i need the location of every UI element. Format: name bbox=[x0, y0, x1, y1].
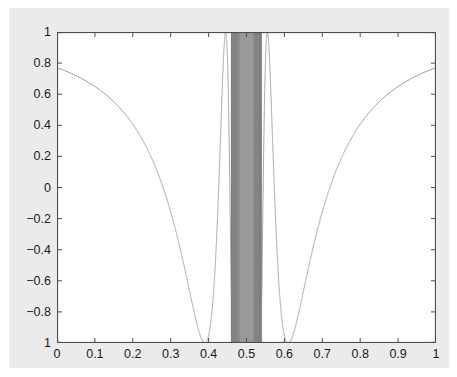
x-tick-label: 0.5 bbox=[238, 348, 255, 361]
x-tick-label: 0.4 bbox=[200, 348, 217, 361]
y-tick-label: 0.2 bbox=[11, 150, 51, 163]
x-tick-label: 0 bbox=[54, 348, 61, 361]
figure-canvas: 10.80.60.40.20−0.2−0.4−0.6−0.81 00.10.20… bbox=[9, 8, 449, 368]
y-tick-label: 0.4 bbox=[11, 119, 51, 132]
y-axis-tick-labels: 10.80.60.40.20−0.2−0.4−0.6−0.81 bbox=[9, 32, 51, 343]
x-tick-label: 0.6 bbox=[276, 348, 293, 361]
x-tick-label: 0.2 bbox=[124, 348, 141, 361]
y-tick-label: 0 bbox=[11, 181, 51, 194]
x-tick-label: 0.1 bbox=[86, 348, 103, 361]
plot-canvas bbox=[57, 32, 436, 343]
y-tick-label: 0.6 bbox=[11, 88, 51, 101]
y-tick-label: −0.2 bbox=[11, 212, 51, 225]
y-tick-label: −0.4 bbox=[11, 243, 51, 256]
y-tick-label: −0.8 bbox=[11, 306, 51, 319]
figure: 10.80.60.40.20−0.2−0.4−0.6−0.81 00.10.20… bbox=[0, 0, 457, 377]
x-tick-label: 0.7 bbox=[314, 348, 331, 361]
plot-axes bbox=[57, 32, 436, 343]
x-tick-label: 1 bbox=[433, 348, 440, 361]
x-tick-label: 0.8 bbox=[351, 348, 368, 361]
y-tick-label: 1 bbox=[11, 26, 51, 39]
y-tick-label: −0.6 bbox=[11, 275, 51, 288]
oscillation-dense-band bbox=[231, 32, 261, 343]
x-tick-label: 0.9 bbox=[389, 348, 406, 361]
x-axis-tick-labels: 00.10.20.30.40.50.60.70.80.91 bbox=[57, 348, 436, 366]
y-tick-label: 0.8 bbox=[11, 57, 51, 70]
y-tick-label: 1 bbox=[11, 337, 51, 350]
x-tick-label: 0.3 bbox=[162, 348, 179, 361]
